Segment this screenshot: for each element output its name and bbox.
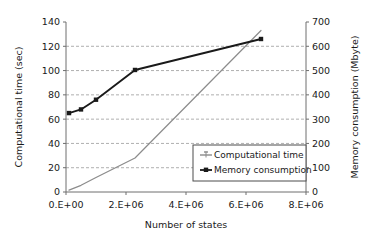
secondary-y-tick-label: 500 (312, 65, 330, 76)
y-axis-title: Computational time (sec) (13, 47, 24, 168)
secondary-y-tick-label: 600 (312, 41, 330, 52)
x-axis-tick-labels: 0.E+002.E+064.E+066.E+068.E+06 (48, 199, 323, 210)
y-tick-label: 60 (48, 114, 60, 125)
legend-entry: Computational time (200, 150, 304, 160)
y-tick-label: 120 (42, 41, 60, 52)
y-tick-label: 20 (48, 162, 60, 173)
chart-legend: Computational timeMemory consumption (193, 145, 312, 181)
legend-label: Computational time (214, 150, 304, 160)
chart-container: 020406080100120140 010020030040050060070… (0, 0, 380, 240)
y-tick-label: 140 (42, 16, 60, 27)
data-point-marker (79, 107, 83, 111)
data-point-marker (133, 68, 137, 72)
x-tick-label: 8.E+06 (288, 199, 323, 210)
x-tick-label: 6.E+06 (228, 199, 263, 210)
secondary-y-tick-label: 400 (312, 89, 330, 100)
x-axis-title: Number of states (145, 219, 227, 230)
x-tick-label: 0.E+00 (48, 199, 83, 210)
secondary-y-tick-label: 700 (312, 16, 330, 27)
y-tick-label: 100 (42, 65, 60, 76)
secondary-y-axis-title: Memory consumption (Mbyte) (349, 35, 360, 178)
secondary-y-tick-label: 300 (312, 114, 330, 125)
y-tick-label: 80 (48, 89, 60, 100)
legend-marker-square (204, 168, 208, 172)
legend-entry: Memory consumption (200, 165, 312, 175)
data-point-marker (259, 37, 263, 41)
y-tick-label: 40 (48, 138, 60, 149)
data-point-marker (67, 111, 71, 115)
legend-label: Memory consumption (214, 165, 312, 175)
secondary-y-tick-label: 0 (312, 186, 318, 197)
left-axis-tick-labels: 020406080100120140 (42, 16, 60, 197)
y-tick-label: 0 (54, 186, 60, 197)
secondary-y-tick-label: 100 (312, 162, 330, 173)
x-tick-label: 4.E+06 (168, 199, 203, 210)
right-axis-tick-labels: 0100200300400500600700 (312, 16, 330, 197)
chart-plot: 020406080100120140 010020030040050060070… (0, 0, 380, 240)
secondary-y-tick-label: 200 (312, 138, 330, 149)
data-point-marker (94, 98, 98, 102)
x-tick-label: 2.E+06 (108, 199, 143, 210)
